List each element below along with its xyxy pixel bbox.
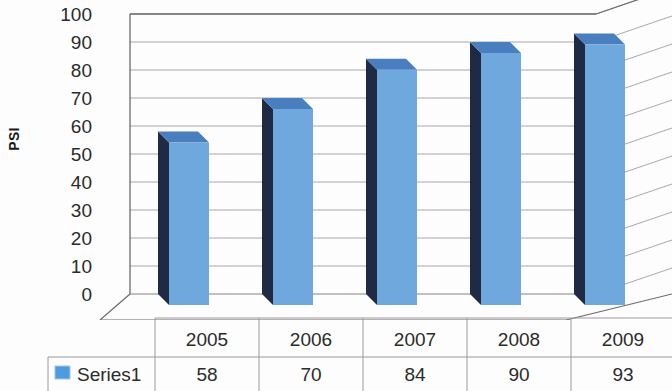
y-tick-100: 100 (28, 5, 92, 24)
bar-2005 (158, 132, 209, 305)
bars (158, 34, 625, 305)
bar-side-face-2005 (158, 132, 169, 305)
bar-2007 (366, 59, 417, 305)
cell-2008: 90 (508, 364, 529, 385)
y-tick-0: 0 (28, 285, 92, 304)
y-tick-60: 60 (28, 117, 92, 136)
series-color-swatch (55, 366, 70, 379)
y-tick-20: 20 (28, 229, 92, 248)
cell-2009: 93 (612, 364, 633, 385)
bar-2009 (574, 34, 625, 305)
bar-2008 (470, 42, 521, 305)
y-tick-90: 90 (28, 33, 92, 52)
data-table: 20052006200720082009Series15870849093 (0, 316, 672, 391)
y-tick-50: 50 (28, 145, 92, 164)
bar-side-face-2009 (574, 34, 585, 305)
y-axis-tick-labels: 100 90 80 70 60 50 40 30 20 10 0 (28, 0, 92, 310)
bar-front-face-2008 (481, 53, 521, 305)
plot-svg (96, 0, 672, 320)
y-tick-30: 30 (28, 201, 92, 220)
column-header-2006: 2006 (290, 329, 332, 350)
column-header-2008: 2008 (498, 329, 540, 350)
row-header-label: Series1 (77, 364, 141, 385)
bar-side-face-2006 (262, 98, 273, 305)
bar-front-face-2007 (377, 70, 417, 305)
column-header-2005: 2005 (186, 329, 228, 350)
y-axis-title: PSI (6, 111, 22, 167)
column-header-2007: 2007 (394, 329, 436, 350)
cell-2006: 70 (300, 364, 321, 385)
gridline-depth-100 (596, 0, 672, 14)
column-header-2009: 2009 (602, 329, 644, 350)
table-gridlines (48, 318, 672, 391)
bar-front-face-2006 (273, 109, 313, 305)
cell-2005: 58 (196, 364, 217, 385)
bar-front-face-2009 (585, 45, 625, 305)
bar-front-face-2005 (169, 143, 209, 305)
y-tick-40: 40 (28, 173, 92, 192)
data-table-svg: 20052006200720082009Series15870849093 (0, 316, 672, 391)
y-tick-70: 70 (28, 89, 92, 108)
plot-area (96, 0, 672, 320)
cell-2007: 84 (404, 364, 426, 385)
bar-side-face-2007 (366, 59, 377, 305)
chart-screenshot: PSI 100 90 80 70 60 50 40 30 20 10 0 200… (0, 0, 672, 391)
bar-2006 (262, 98, 313, 305)
bar-side-face-2008 (470, 42, 481, 305)
y-tick-80: 80 (28, 61, 92, 80)
top-depth-edge (596, 0, 672, 14)
y-tick-10: 10 (28, 257, 92, 276)
